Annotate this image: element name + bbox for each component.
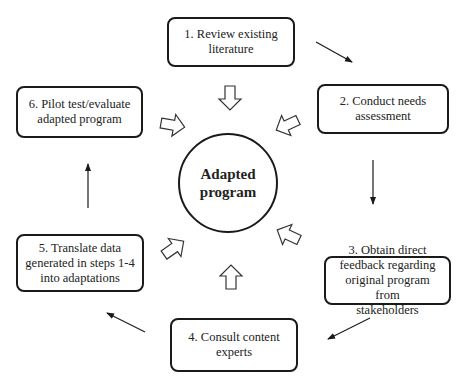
flow-arrow-4-to-5 [107,313,145,332]
arrows-layer [0,0,463,390]
flow-arrow-1-to-2 [316,42,352,62]
input-arrow-from-step-6 [159,112,186,138]
input-arrow-from-step-2 [272,110,303,140]
input-arrow-from-step-1 [219,86,241,110]
input-arrow-from-step-5 [158,232,190,264]
flow-arrow-3-to-4 [328,318,370,339]
input-arrow-from-step-3 [273,220,304,250]
input-arrow-from-step-4 [220,265,242,289]
